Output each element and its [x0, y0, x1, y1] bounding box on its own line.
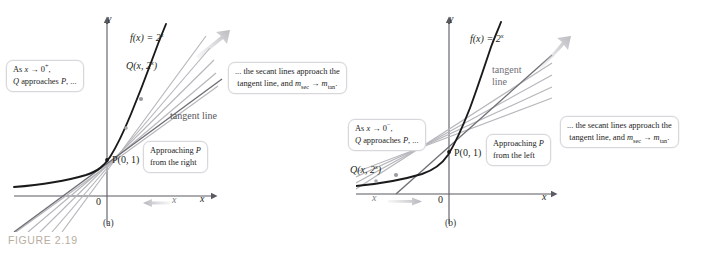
callout-b-l1-pre: As — [355, 124, 366, 133]
callout-direction-b-line2: from the left — [493, 150, 544, 162]
callout-b-l2-text: approaches — [361, 136, 403, 145]
callout-direction-b-line1: Approaching P — [493, 138, 544, 150]
callout-approach-a-line2: Q approaches P, ... — [13, 76, 77, 88]
motion-arrow-b — [538, 36, 571, 70]
function-label-exp-b: x — [501, 32, 504, 39]
callout-direction-b: Approaching P from the left — [486, 134, 551, 166]
point-p-a — [105, 158, 109, 162]
point-q2-b — [374, 179, 378, 183]
tangent-line-label-b-line2: line — [492, 76, 507, 87]
callout-direction-a: Approaching P from the right — [143, 141, 208, 173]
callout-a-l2-text: approaches — [19, 77, 61, 86]
moving-x-label-a: x — [172, 194, 176, 205]
panel-a-letter: (a) — [103, 218, 114, 228]
callout-secant-b-sub1: sec — [633, 137, 641, 144]
callout-dir-a-var: P — [196, 146, 201, 155]
x-motion-arrow-b — [388, 197, 422, 205]
panel-a: y x 0 x f(x) = 2x Q(x, 2x) tangent line … — [0, 0, 358, 232]
callout-dir-b-var: P — [539, 139, 544, 148]
function-label-b: f(x) = 2 — [470, 33, 501, 44]
callout-a-l1-arrow: → 0 — [28, 65, 45, 74]
callout-secant-a-post: . — [335, 79, 337, 88]
x-motion-arrow-a — [143, 199, 170, 207]
callout-secant-a-arrow: → — [309, 79, 322, 88]
callout-b-l2-post: , ... — [408, 136, 418, 145]
callout-direction-a-line1: Approaching P — [150, 145, 201, 157]
callout-a-l1-post: , — [48, 65, 50, 74]
callout-b-l1-arrow: → 0 — [370, 124, 387, 133]
callout-secant-b-arrow: → — [641, 133, 654, 142]
callout-secant-a-sub1: sec — [301, 83, 309, 90]
function-label-exp-a: x — [161, 31, 164, 38]
callout-a-l1-pre: As — [13, 65, 24, 74]
callout-secant-b-line1: ... the secant lines approach the — [567, 120, 672, 132]
callout-a-l2-post: , ... — [66, 77, 76, 86]
function-label-a: f(x) = 2 — [130, 32, 161, 43]
tangent-line-label-b-line1: tangent — [492, 64, 521, 75]
callout-approach-b: As x → 0−, Q approaches P, ... — [348, 119, 426, 151]
point-p-label-a: P(0, 1) — [112, 154, 139, 165]
point-q-a — [139, 97, 143, 101]
axes-a — [14, 22, 212, 224]
callout-secant-a-line1: ... the secant lines approach the — [235, 66, 340, 78]
tangent-line-label-a: tangent line — [170, 110, 217, 121]
callout-secant-a-line2: tangent line, and msec → mtan. — [235, 78, 340, 90]
q-label-a: Q(x, 2 — [126, 60, 151, 71]
q-label-b: Q(x, 2 — [350, 164, 375, 175]
callout-direction-a-line2: from the right — [150, 157, 201, 169]
point-p-label-b: P(0, 1) — [454, 147, 481, 158]
point-p-b — [447, 150, 451, 154]
callout-approach-b-line2: Q approaches P, ... — [355, 135, 419, 147]
q-label-close-a: ) — [154, 60, 157, 71]
moving-x-label-b: x — [372, 192, 376, 203]
callout-secant-a-l2-pre: tangent line, and — [237, 79, 295, 88]
callout-dir-a-pre: Approaching — [150, 146, 196, 155]
callout-approach-a: As x → 0+, Q approaches P, ... — [6, 60, 84, 92]
origin-label-b: 0 — [438, 194, 443, 205]
callout-secant-b-post: . — [667, 133, 669, 142]
figure-number-caption: FIGURE 2.19 — [8, 234, 78, 246]
q-label-close-b: ) — [378, 164, 381, 175]
point-q-b — [394, 173, 398, 177]
figure-2-19: y x 0 x f(x) = 2x Q(x, 2x) tangent line … — [0, 0, 716, 255]
x-axis-label-a: x — [200, 193, 204, 204]
origin-label-a: 0 — [96, 196, 101, 207]
callout-approach-a-line1: As x → 0+, — [13, 64, 77, 76]
callout-approach-b-line1: As x → 0−, — [355, 123, 419, 135]
exponential-curve-b — [356, 22, 501, 186]
panel-b: y x 0 x f(x) = 2x Q(x, 2x) tangent line … — [356, 0, 714, 232]
motion-arrow-a — [196, 30, 230, 59]
panel-b-letter: (b) — [445, 218, 456, 228]
callout-secant-b-l2-pre: tangent line, and — [569, 133, 627, 142]
callout-dir-b-pre: Approaching — [493, 139, 539, 148]
y-axis-label-a: y — [107, 13, 111, 24]
y-axis-label-b: y — [449, 13, 453, 24]
callout-secant-b: ... the secant lines approach the tangen… — [560, 116, 679, 148]
point-q2-a — [124, 126, 128, 130]
callout-b-l1-post: , — [390, 124, 392, 133]
callout-secant-b-line2: tangent line, and msec → mtan. — [567, 132, 672, 144]
callout-secant-a: ... the secant lines approach the tangen… — [228, 62, 347, 94]
x-axis-label-b: x — [542, 191, 546, 202]
